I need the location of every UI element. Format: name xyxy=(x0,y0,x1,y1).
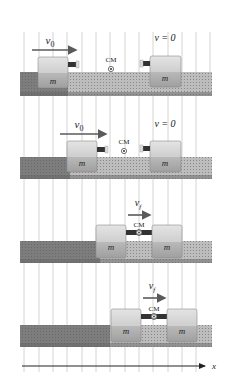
left-block: m xyxy=(96,225,126,258)
x-axis-label: x xyxy=(211,361,216,371)
mass-label: m xyxy=(162,158,169,168)
x-axis: x xyxy=(22,361,216,371)
cm-marker-icon xyxy=(137,230,142,235)
mass-label: m xyxy=(162,73,169,83)
cm-label: CM xyxy=(134,221,146,229)
mass-label: m xyxy=(108,242,115,252)
panel-before: m m v0 v = 0 CM xyxy=(20,32,212,96)
mass-label: m xyxy=(79,158,86,168)
mass-label: m xyxy=(164,242,171,252)
cm-marker-icon xyxy=(108,66,113,71)
cm-marker-icon xyxy=(152,314,157,319)
cm-label: CM xyxy=(149,305,161,313)
panel-stuck: m m vf CM xyxy=(20,197,212,263)
velocity-label-right: v = 0 xyxy=(154,118,175,129)
cm-collision-diagram: m m v0 v = 0 CM xyxy=(0,0,227,391)
cm-label: CM xyxy=(106,56,118,64)
panel-approaching: m m v0 v = 0 CM xyxy=(20,118,212,179)
velocity-label-vf: vf xyxy=(135,197,142,211)
cm-marker-icon xyxy=(121,148,126,153)
left-block: m xyxy=(111,309,141,342)
velocity-label-vf: vf xyxy=(149,280,156,294)
mass-label: m xyxy=(50,76,57,86)
right-block: m xyxy=(152,225,182,258)
cm-label: CM xyxy=(119,138,131,146)
right-block: m xyxy=(167,309,197,342)
mass-label: m xyxy=(179,326,186,336)
velocity-label-right: v = 0 xyxy=(154,32,175,43)
mass-label: m xyxy=(123,326,130,336)
panel-moving-together: m m vf CM xyxy=(20,280,212,347)
